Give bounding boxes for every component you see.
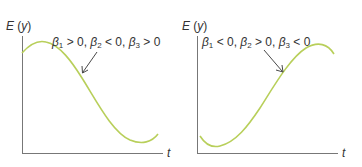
right-annotation: β1 < 0, β2 > 0, β3 < 0 (201, 35, 311, 50)
right-arrow-icon (264, 50, 283, 72)
right-chart: E (y) t β1 < 0, β2 > 0, β3 < 0 (182, 19, 346, 160)
left-arrow-icon (82, 52, 97, 73)
left-curve (22, 41, 158, 142)
left-annotation: β1 > 0, β2 < 0, β3 > 0 (51, 35, 161, 50)
right-y-axis-label: E (y) (182, 19, 207, 33)
left-y-axis-label: E (y) (6, 19, 31, 33)
left-chart: E (y) t β1 > 0, β2 < 0, β3 > 0 (6, 19, 171, 160)
cubic-model-charts: E (y) t β1 > 0, β2 < 0, β3 > 0 E (y) t β… (0, 0, 362, 167)
right-curve (200, 44, 334, 146)
left-x-axis-label: t (167, 146, 171, 160)
right-x-axis-label: t (342, 146, 346, 160)
